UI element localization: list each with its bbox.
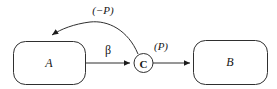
node-c-label: C	[140, 58, 148, 69]
edge-c-to-b-label: (P)	[154, 41, 168, 52]
edge-a-to-c-label: β	[105, 44, 111, 56]
node-b-label: B	[226, 56, 233, 68]
node-a-label: A	[45, 57, 52, 69]
edge-c-to-a-label: (−P)	[92, 5, 113, 16]
diagram-canvas: A B C β (P) (−P)	[0, 0, 277, 89]
diagram-svg	[0, 0, 277, 89]
